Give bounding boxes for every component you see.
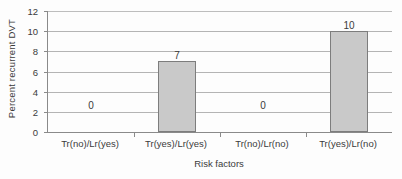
plot-area: 07010 [47, 11, 392, 133]
bar-slot: 0 [48, 11, 134, 132]
x-axis-title: Risk factors [47, 158, 391, 169]
bar-slot: 0 [220, 11, 306, 132]
x-tick-mark [220, 132, 221, 137]
x-category-label: Tr(no)/Lr(no) [219, 138, 305, 149]
bar-slot: 7 [134, 11, 220, 132]
y-tick-label: 6 [8, 66, 38, 77]
y-tick-label: 8 [8, 46, 38, 57]
y-tick-label: 4 [8, 86, 38, 97]
bar-chart-figure: Percent recurrent DVT 07010 Risk factors… [0, 0, 402, 179]
x-tick-mark [134, 132, 135, 137]
bar[interactable]: 10 [330, 31, 368, 132]
bar-value-label: 10 [343, 20, 354, 31]
bar-slot: 10 [306, 11, 392, 132]
x-category-label: Tr(yes)/Lr(no) [305, 138, 391, 149]
x-category-label: Tr(yes)/Lr(yes) [133, 138, 219, 149]
x-category-label: Tr(no)/Lr(yes) [47, 138, 133, 149]
bar-value-label: 0 [88, 100, 94, 111]
bar-value-label: 0 [260, 100, 266, 111]
y-tick-label: 10 [8, 26, 38, 37]
y-tick-label: 0 [8, 127, 38, 138]
y-tick-label: 12 [8, 6, 38, 17]
bar[interactable]: 7 [158, 61, 196, 132]
y-tick-label: 2 [8, 106, 38, 117]
bar-value-label: 7 [174, 50, 180, 61]
y-tick-mark [44, 132, 48, 133]
x-tick-mark [306, 132, 307, 137]
